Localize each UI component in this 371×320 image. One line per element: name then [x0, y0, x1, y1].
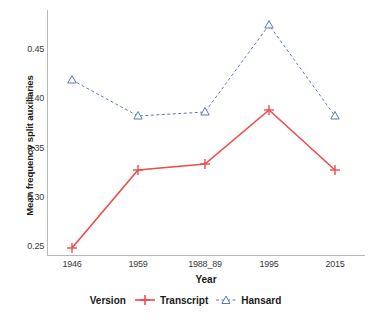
legend-label-hansard: Hansard: [241, 295, 281, 306]
legend-title: Version: [90, 295, 126, 306]
chart-legend: Version Transcript Hansard: [0, 294, 371, 306]
legend-entry-transcript[interactable]: Transcript: [134, 294, 208, 306]
x-tick-label: 1946: [37, 259, 107, 269]
legend-label-transcript: Transcript: [160, 295, 208, 306]
x-tick-label: 1988_89: [170, 259, 240, 269]
x-tick-label: 1995: [234, 259, 304, 269]
x-tick-label: 1959: [103, 259, 173, 269]
legend-swatch-transcript-icon: [134, 294, 156, 306]
plot-area: [0, 0, 371, 320]
legend-entry-hansard[interactable]: Hansard: [215, 294, 281, 306]
line-chart-figure: Mean frequency split auxiliaries 0.25 0.…: [0, 0, 371, 320]
x-tick-label: 2015: [300, 259, 370, 269]
series-line-transcript: [72, 110, 335, 248]
legend-swatch-hansard-icon: [215, 294, 237, 306]
series-line-hansard: [72, 25, 335, 116]
series-markers-hansard: [68, 21, 339, 120]
x-axis-title: Year: [47, 274, 365, 285]
series-markers-transcript: [67, 105, 340, 253]
